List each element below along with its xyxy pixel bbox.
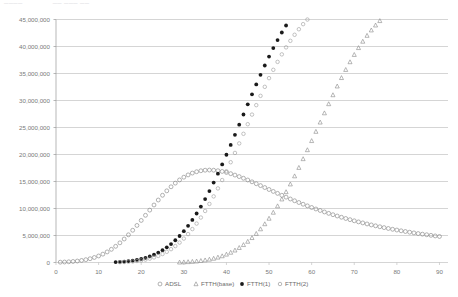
data-point [233, 151, 237, 155]
data-point [259, 94, 263, 98]
x-tick-label: 40 [223, 268, 230, 275]
data-point [267, 76, 271, 80]
data-point [395, 228, 399, 232]
data-point [293, 33, 297, 37]
data-point [246, 102, 250, 106]
data-point [263, 186, 267, 190]
series-ftth2 [118, 18, 309, 264]
data-point [178, 241, 182, 245]
y-tick-label: 25,000,000 [19, 124, 51, 131]
data-point [122, 237, 126, 241]
data-point [114, 244, 118, 248]
y-tick-label: 0 [47, 259, 51, 266]
data-point [246, 122, 250, 126]
data-series-group [58, 18, 441, 264]
data-point [169, 242, 173, 246]
data-point [229, 143, 233, 147]
legend-marker [240, 282, 244, 286]
data-point [259, 184, 263, 188]
data-point [284, 195, 288, 199]
x-tick-label: 20 [138, 268, 145, 275]
data-point [207, 257, 211, 261]
data-point [208, 202, 212, 206]
data-point [195, 170, 199, 174]
data-point [438, 235, 442, 239]
data-point [297, 201, 301, 205]
data-point [284, 24, 288, 28]
legend-item-ftth1[interactable]: FTTH(1) [240, 280, 270, 287]
data-point [365, 222, 369, 226]
data-point [229, 172, 233, 176]
data-point [237, 246, 241, 250]
data-point [178, 260, 182, 264]
data-point [365, 33, 369, 37]
data-point [220, 170, 224, 174]
y-tick-label: 10,000,000 [19, 205, 51, 212]
x-tick-label: 30 [180, 268, 187, 275]
data-point [301, 157, 305, 161]
data-point [152, 203, 156, 207]
legend-label: FTTH(1) [247, 280, 270, 287]
data-point [71, 260, 75, 264]
y-axis-ticks: 05,000,00010,000,00015,000,00020,000,000… [19, 16, 56, 266]
x-axis-ticks: 0102030405060708090 [54, 263, 443, 275]
data-point [199, 259, 203, 263]
data-point [186, 260, 190, 264]
data-point [327, 102, 331, 106]
data-point [97, 254, 101, 258]
data-point [314, 129, 318, 133]
data-point [348, 218, 352, 222]
data-point [144, 213, 148, 217]
legend-label: FTTH(2) [285, 280, 308, 287]
data-point [327, 211, 331, 215]
data-point [203, 168, 207, 172]
data-point [161, 248, 165, 252]
data-point [237, 123, 241, 127]
data-point [276, 60, 280, 64]
data-point [357, 220, 361, 224]
data-point [310, 206, 314, 210]
data-point [182, 229, 186, 233]
data-point [114, 260, 118, 264]
data-point [263, 85, 267, 89]
data-point [280, 53, 284, 57]
data-point [276, 38, 280, 42]
data-point [416, 232, 420, 236]
data-point [165, 245, 169, 249]
data-point [178, 234, 182, 238]
data-point [220, 162, 224, 166]
data-point [190, 218, 194, 222]
legend-item-adsl[interactable]: ADSL [158, 280, 182, 287]
gridlines-group [56, 20, 448, 236]
data-point [280, 197, 284, 201]
series-adsl [58, 168, 441, 264]
legend-item-ftth2[interactable]: FTTH(2) [278, 280, 308, 287]
data-point [352, 219, 356, 223]
data-point [242, 176, 246, 180]
data-point [92, 256, 96, 260]
legend-item-ftthbase[interactable]: FTTH(base) [194, 280, 234, 287]
data-point [254, 83, 258, 87]
data-point [212, 168, 216, 172]
data-point [250, 236, 254, 240]
data-point [318, 209, 322, 213]
data-point [352, 53, 356, 57]
x-tick-label: 50 [266, 268, 273, 275]
data-point [255, 103, 259, 107]
data-point [348, 60, 352, 64]
data-point [250, 180, 254, 184]
data-point [199, 205, 203, 209]
data-point [212, 256, 216, 260]
data-point [288, 182, 292, 186]
data-point [258, 227, 262, 231]
data-point [293, 199, 297, 203]
data-point [182, 175, 186, 179]
data-point [276, 191, 280, 195]
data-point [241, 243, 245, 247]
data-point [161, 193, 165, 197]
data-point [195, 212, 199, 216]
data-point [271, 189, 275, 193]
data-point [305, 148, 309, 152]
data-point [335, 214, 339, 218]
data-point [250, 92, 254, 96]
